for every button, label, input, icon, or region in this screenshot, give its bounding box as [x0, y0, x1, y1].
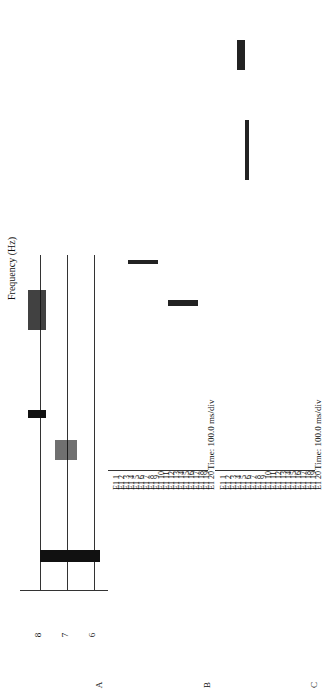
gridline-7	[67, 255, 68, 590]
spike-burst	[237, 40, 245, 70]
panel-letter-b: B	[202, 682, 212, 688]
time-axis	[20, 590, 108, 591]
ytick-7: 7	[60, 633, 70, 638]
electrode-label: E1 20	[314, 471, 322, 490]
panel-a-spectrogram: Frequency (Hz) 8 7 6 A	[0, 0, 108, 698]
ytick-6: 6	[87, 633, 97, 638]
panel-letter-c: C	[309, 682, 319, 688]
spectral-energy	[55, 440, 77, 460]
spectral-energy	[40, 550, 100, 562]
spike-burst	[128, 260, 158, 264]
spike-burst	[245, 120, 249, 180]
spike-burst	[168, 300, 198, 306]
ytick-8: 8	[33, 633, 43, 638]
frequency-axis-label: Frequency (Hz)	[6, 237, 17, 300]
spectral-energy	[28, 410, 46, 418]
gridline-6	[94, 255, 95, 590]
time-scale-label: Time: 100.0 ms/div	[313, 400, 322, 470]
panel-b-raster: E1 1 E1 2 E1 3 E1 4 E1 5 E1 6 E1 7 E1 8 …	[108, 0, 215, 698]
spectral-energy	[28, 290, 46, 330]
panel-c-raster: E1 1 E1 2 E1 3 E1 4 E1 5 E1 6 E1 7 E1 8 …	[215, 0, 322, 698]
panel-letter-a: A	[94, 682, 104, 689]
